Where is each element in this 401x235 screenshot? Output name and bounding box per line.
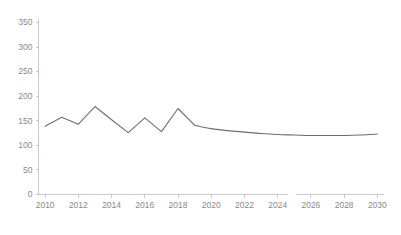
y-tick-label: 50 xyxy=(23,165,33,175)
y-tick-label: 150 xyxy=(18,116,32,126)
x-tick-label: 2014 xyxy=(102,200,121,210)
x-axis: 2010201220142016201820202022202420262028… xyxy=(36,195,387,210)
x-tick-label: 2012 xyxy=(69,200,88,210)
x-tick-label: 2028 xyxy=(335,200,354,210)
x-tick-label: 2018 xyxy=(169,200,188,210)
line-chart: 050100150200250300350 201020122014201620… xyxy=(0,0,401,235)
series-line-historical xyxy=(45,107,195,133)
x-tick-label: 2016 xyxy=(135,200,154,210)
x-tick-label: 2020 xyxy=(202,200,221,210)
y-tick-label: 0 xyxy=(28,189,33,199)
y-tick-label: 250 xyxy=(18,66,32,76)
x-tick-label: 2024 xyxy=(268,200,287,210)
chart-canvas: 050100150200250300350 201020122014201620… xyxy=(0,0,401,235)
x-tick-label: 2026 xyxy=(301,200,320,210)
x-tick-label: 2010 xyxy=(36,200,55,210)
x-tick-label: 2030 xyxy=(368,200,387,210)
series-layer xyxy=(45,107,377,136)
y-tick-label: 100 xyxy=(18,140,32,150)
x-tick-label: 2022 xyxy=(235,200,254,210)
y-tick-label: 300 xyxy=(18,42,32,52)
y-axis: 050100150200250300350 xyxy=(18,17,38,199)
y-tick-label: 350 xyxy=(18,17,32,27)
y-tick-label: 200 xyxy=(18,91,32,101)
series-line-forecast xyxy=(195,125,378,135)
